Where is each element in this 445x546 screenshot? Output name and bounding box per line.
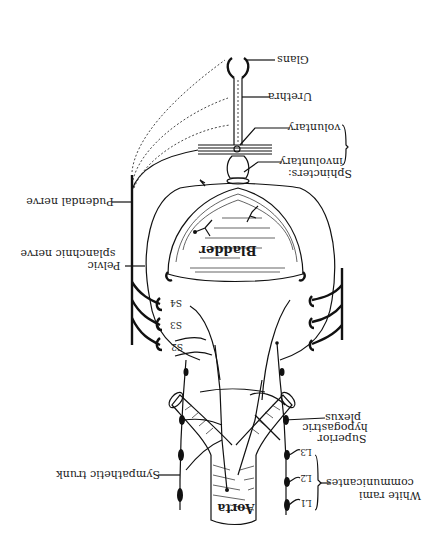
bladder-label: Bladder: [199, 243, 257, 258]
l3-label: L3: [300, 447, 312, 457]
white-rami-label: White rami: [358, 489, 421, 502]
aorta-label: Aorta: [217, 501, 255, 515]
glans-label: Glans: [277, 53, 309, 66]
diagram-svg: Bladder S4 S3 S2: [0, 0, 445, 546]
sacral-roots-right: [310, 268, 342, 350]
sacral-roots-left: [132, 282, 162, 350]
glans: [228, 58, 249, 78]
urethra: [234, 78, 242, 145]
voluntary-label: voluntary: [287, 121, 342, 134]
involuntary-label: involuntary: [278, 155, 342, 168]
bladder-neck: [227, 156, 249, 184]
urogenital-diaphragm: [198, 145, 272, 154]
s3-label: S3: [170, 320, 182, 330]
sympathetic-trunk-right: [275, 341, 300, 515]
urethra-label: Urethra: [267, 90, 312, 103]
l1-label: L1: [300, 498, 312, 508]
innervation-diagram: Bladder S4 S3 S2: [0, 0, 445, 546]
s2-label: S2: [171, 342, 183, 352]
bladder: [166, 188, 304, 282]
communicantes-label: communicantes: [326, 476, 414, 489]
s4-label: S4: [170, 298, 182, 308]
l2-label: L2: [300, 473, 312, 483]
sphincters-label: Sphincters:: [288, 167, 352, 180]
sympathetic-trunk-left: [158, 360, 189, 510]
plexus-label: plexus: [325, 411, 361, 424]
pelvic-outline: [146, 180, 334, 360]
splanchnic-nerve-label: splanchnic nerve: [21, 247, 116, 260]
pudendal-nerve-label: Pudendal nerve: [26, 195, 113, 208]
pelvic-splanchnic-nerve: [125, 266, 290, 400]
sympathetic-trunk-label: Sympathetic trunk: [56, 468, 160, 481]
